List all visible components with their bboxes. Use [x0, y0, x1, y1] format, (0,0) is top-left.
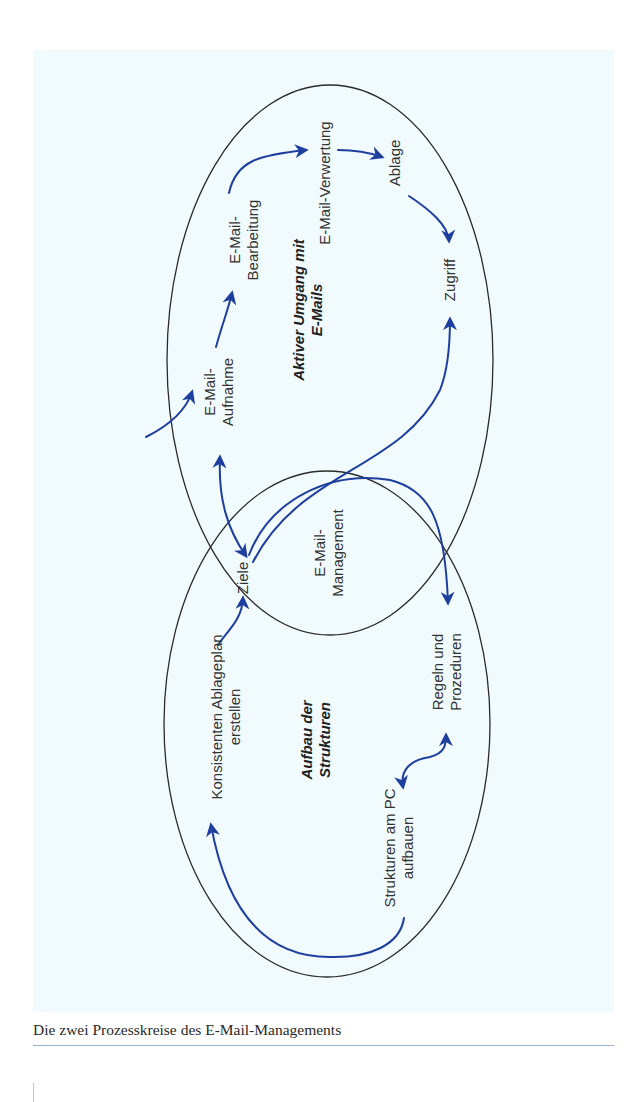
label-strukturen: Strukturen am PC aufbauen: [381, 788, 416, 907]
svg-text:Strukturen am PC: Strukturen am PC: [381, 788, 398, 907]
label-regeln: Regeln und Prozeduren: [429, 633, 464, 711]
label-zugriff: Zugriff: [441, 258, 458, 301]
arrow-aufnahme-to-bearbeitung: [216, 293, 232, 347]
arrow-bearbeitung-to-verwertung: [229, 150, 306, 193]
upper-circle-title: Aktiver Umgang mit E-Mails: [290, 238, 325, 382]
label-bearbeitung: E-Mail- Bearbeitung: [226, 200, 261, 281]
svg-text:erstellen: erstellen: [226, 689, 243, 746]
svg-text:E-Mail-: E-Mail-: [226, 216, 243, 264]
label-ablageplan: Konsistenten Ablageplan erstellen: [208, 634, 243, 799]
svg-text:Ablage: Ablage: [386, 140, 403, 187]
label-verwertung: E-Mail-Verwertung: [316, 121, 333, 244]
svg-text:E-Mail-: E-Mail-: [201, 368, 218, 416]
svg-text:E-Mail-: E-Mail-: [311, 529, 328, 577]
svg-text:E-Mails: E-Mails: [308, 284, 325, 337]
svg-text:Management: Management: [329, 508, 346, 596]
svg-text:Strukturen: Strukturen: [316, 702, 333, 778]
svg-text:Ziele: Ziele: [234, 562, 251, 595]
arrow-ziele-to-regeln: [249, 478, 448, 603]
svg-text:Aktiver Umgang mit: Aktiver Umgang mit: [290, 238, 307, 382]
svg-text:Prozeduren: Prozeduren: [447, 633, 464, 711]
margin-mark: [33, 1083, 34, 1102]
label-aufnahme: E-Mail- Aufnahme: [201, 358, 236, 426]
svg-text:Regeln und: Regeln und: [429, 634, 446, 711]
process-diagram: E-Mail- Aufnahme E-Mail- Bearbeitung E-M…: [0, 0, 636, 1102]
label-ziele: Ziele: [234, 562, 251, 595]
svg-text:Aufbau der: Aufbau der: [298, 699, 315, 780]
svg-text:Bearbeitung: Bearbeitung: [244, 200, 261, 281]
svg-text:Zugriff: Zugriff: [441, 258, 458, 301]
arrow-ziele-to-zugriff: [253, 319, 450, 562]
svg-text:E-Mail-Verwertung: E-Mail-Verwertung: [316, 121, 333, 244]
arrow-strukturen-regeln: [402, 735, 446, 787]
arrow-ablage-to-zugriff: [409, 196, 449, 241]
lower-circle-title: Aufbau der Strukturen: [298, 699, 333, 780]
arrow-verwertung-to-ablage: [338, 150, 382, 157]
arrow-ziele-to-aufnahme: [220, 457, 246, 556]
figure-caption: Die zwei Prozesskreise des E-Mail-Manage…: [33, 1021, 614, 1046]
overlap-label: E-Mail- Management: [311, 508, 346, 596]
svg-text:Konsistenten Ablageplan: Konsistenten Ablageplan: [208, 634, 225, 799]
svg-text:Aufnahme: Aufnahme: [219, 358, 236, 426]
label-ablage: Ablage: [386, 140, 403, 187]
svg-text:aufbauen: aufbauen: [399, 817, 416, 880]
